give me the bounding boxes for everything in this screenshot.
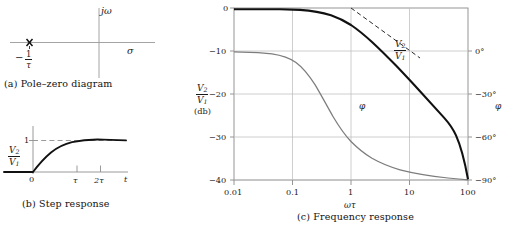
textbook-figure: jω σ − 1 τ (a) Pole–zero diagram 1 V2 V1… — [0, 0, 512, 230]
freq-ytick-m20: −20 — [209, 89, 226, 99]
freq-left-axis-ticks — [230, 8, 234, 180]
magnitude-curve-label: V2 V1 — [394, 40, 406, 61]
magnitude-curve-label-denominator: V1 — [394, 51, 406, 61]
freq-left-axis-label: V2 V1 — [196, 84, 208, 105]
step-xtick-zero: 0 — [29, 174, 34, 184]
pole-label-minus: − — [15, 52, 23, 63]
freq-x-axis-ticks — [234, 180, 468, 185]
step-response-plot — [4, 126, 128, 174]
freq-xtick-0p1: 0.1 — [286, 187, 299, 197]
pole-label-denominator: τ — [25, 60, 32, 69]
step-xaxis-label: t — [124, 174, 127, 184]
step-xtick-tau: τ — [73, 175, 78, 185]
freq-ytick-m40: −40 — [209, 175, 226, 185]
pole-label-numerator: 1 — [25, 50, 32, 60]
jomega-axis-label: jω — [101, 5, 112, 16]
panel-c-caption: (c) Frequency response — [297, 211, 414, 222]
freq-xtick-1: 1 — [348, 187, 353, 197]
step-ylabel-numerator: V2 — [8, 146, 20, 157]
panel-b-caption: (b) Step response — [22, 198, 110, 209]
phase-curve-label: φ — [359, 101, 365, 111]
freq-ytick-m30: −30 — [209, 132, 226, 142]
freq-right-axis-ticks — [468, 51, 472, 180]
freq-phase-tick-0: 0° — [475, 46, 484, 56]
freq-phase-tick-m30: −30° — [475, 89, 496, 99]
freq-xtick-0p01: 0.01 — [224, 187, 242, 197]
pole-label-fraction: 1 τ — [25, 50, 32, 69]
freq-phase-tick-m60: −60° — [475, 132, 496, 142]
freq-xtick-10: 10 — [404, 187, 414, 197]
freq-xtick-100: 100 — [460, 187, 476, 197]
freq-left-axis-label-denominator: V1 — [196, 95, 208, 105]
freq-left-axis-units: (db) — [194, 106, 211, 116]
freq-phase-tick-m90: −90° — [475, 175, 496, 185]
step-ytick-one: 1 — [24, 135, 29, 145]
freq-ytick-0: 0 — [223, 3, 228, 13]
figure-graphics — [0, 0, 512, 230]
step-xtick-2tau: 2τ — [94, 175, 104, 185]
freq-left-axis-label-numerator: V2 — [196, 84, 208, 95]
step-response-curve — [4, 139, 126, 172]
freq-xaxis-label: ωτ — [344, 200, 356, 210]
freq-right-axis-label: φ — [495, 101, 501, 111]
freq-ytick-m10: −10 — [209, 46, 226, 56]
frequency-response-plot — [230, 8, 472, 185]
sigma-axis-label: σ — [127, 45, 134, 56]
panel-a-caption: (a) Pole–zero diagram — [4, 78, 112, 89]
step-ylabel: V2 V1 — [8, 146, 20, 167]
step-ylabel-denominator: V1 — [8, 157, 20, 167]
magnitude-curve-label-numerator: V2 — [394, 40, 406, 51]
